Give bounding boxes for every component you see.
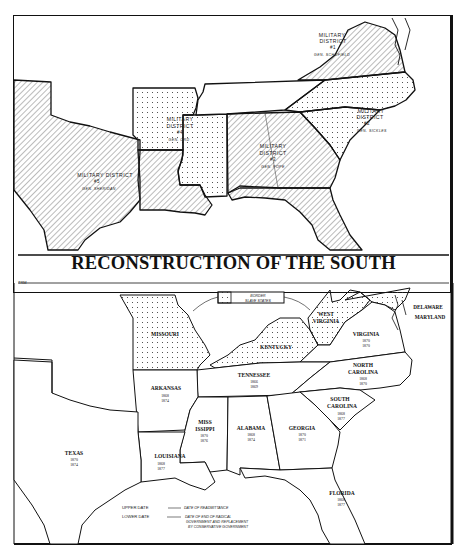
label-sc-1: SOUTH [330,396,350,402]
legend-arc-left [193,297,218,311]
district-1-virginia [298,22,405,80]
label-ms-1: MISS [198,419,211,425]
bottom-map [14,283,453,544]
d5-number: #5 [94,179,100,184]
nc-upper: 1868 [359,377,367,381]
border-states-legend: BORDER SLAVE STATES [218,292,284,303]
ms-lower: 1876 [200,439,208,443]
label-nc-2: CAROLINA [348,369,378,375]
arkansas-upper: 1868 [161,394,169,398]
sc-lower: 1877 [337,417,345,421]
key-lower-desc-1: DATE OF END OF RADICAL [185,515,231,519]
florida-upper: 1868 [337,498,345,502]
virginia-upper: 1870 [362,339,370,343]
d3-label-line2: DISTRICT [259,150,287,156]
texas-upper: 1870 [70,458,78,462]
label-georgia: GEORGIA [289,425,316,431]
d3-label-line1: MILITARY [260,143,287,149]
florida [240,468,365,544]
alabama-lower: 1874 [247,438,255,442]
label-delaware: DELAWARE [413,304,443,310]
d4-number: #4 [177,130,183,135]
map-canvas: MILITARY DISTRICT #1 GEN. SCHOFIELD MILI… [0,0,467,553]
d1-number: #1 [330,45,336,50]
d5-label-line1: MILITARY DISTRICT [77,172,133,178]
label-kentucky: KENTUCKY [260,344,292,350]
key-lower-desc-3: BY CONSERVATIVE GOVERNMENT [188,525,249,529]
artist-signature: TRM [18,280,27,285]
district-5-texas [14,80,140,250]
d4-label-line1: MILITARY [167,116,194,122]
d5-general: GEN. SHERIDAN [82,187,116,191]
tennessee-lower: 1869 [250,385,258,389]
label-nc-1: NORTH [353,362,374,368]
district-3-florida [228,186,362,250]
label-wv-1: WEST [318,311,334,317]
arkansas-lower: 1874 [161,399,169,403]
tennessee-upper: 1866 [250,380,258,384]
key-lower-desc-2: GOVERNMENT AND REPLACEMENT [186,520,249,524]
label-missouri: MISSOURI [151,331,179,337]
top-map [14,18,415,250]
key-lower-label: LOWER DATE [122,514,150,519]
d3-number: #3 [270,157,276,162]
key-upper-label: UPPER DATE [122,505,149,510]
label-texas: TEXAS [65,450,83,456]
key-upper-desc: DATE OF READMITTANCE [184,506,229,510]
d2-general: GEN. SICKLES [357,129,387,133]
label-ms-2: ISSIPPI [195,426,214,432]
nc-lower: 1870 [359,382,367,386]
ms-upper: 1870 [200,434,208,438]
d4-general: GEN. ORD [169,138,190,142]
label-wv-2: VIRGINIA [313,318,340,324]
label-virginia: VIRGINIA [353,331,380,337]
legend-line1: BORDER [250,294,266,298]
louisiana-upper: 1868 [157,462,165,466]
georgia-lower: 1871 [298,438,306,442]
florida-lower: 1877 [337,503,345,507]
legend-line2: SLAVE STATES [245,299,271,303]
label-florida: FLORIDA [329,490,354,496]
sc-upper: 1868 [337,412,345,416]
d2-label-line2: DISTRICT [356,114,384,120]
d1-general: GEN. SCHOFIELD [314,53,350,57]
label-sc-2: CAROLINA [327,403,357,409]
label-arkansas: ARKANSAS [151,385,181,391]
alabama-upper: 1868 [247,433,255,437]
label-tennessee: TENNESSEE [238,372,271,378]
label-maryland: MARYLAND [415,314,446,320]
label-alabama: ALABAMA [237,425,265,431]
d3-general: GEN. POPE [261,165,285,169]
legend-arc-right [284,297,310,310]
date-key: UPPER DATE DATE OF READMITTANCE LOWER DA… [122,505,249,529]
louisiana-lower: 1877 [157,467,165,471]
virginia-lower: 1870 [362,344,370,348]
d1-label-line2: DISTRICT [319,38,347,44]
map-title: RECONSTRUCTION OF THE SOUTH [0,253,467,274]
georgia-upper: 1870 [298,433,306,437]
texas-lower: 1874 [70,463,78,467]
label-louisiana: LOUISIANA [154,453,185,459]
d2-number: #2 [364,121,370,126]
d4-label-line2: DISTRICT [166,123,194,129]
